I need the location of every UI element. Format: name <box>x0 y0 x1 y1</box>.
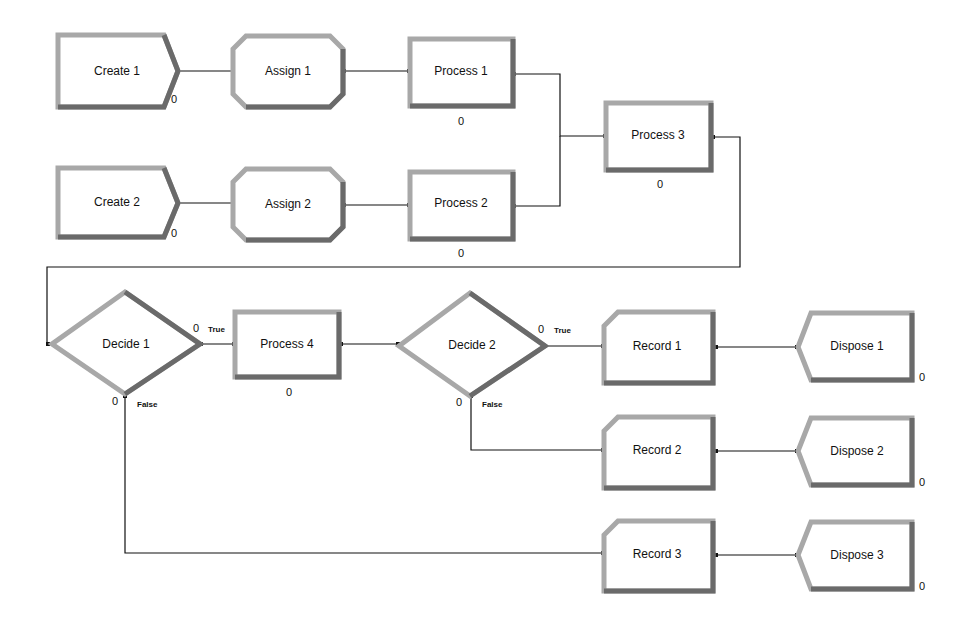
dispose-module-3[interactable]: Dispose 3 0 <box>798 522 925 592</box>
dispose2-label: Dispose 2 <box>830 444 884 458</box>
connector-process2-process3[interactable] <box>514 136 560 206</box>
record-module-1[interactable]: Record 1 <box>604 312 713 383</box>
dispose3-count: 0 <box>919 580 925 592</box>
create2-count: 0 <box>171 227 177 239</box>
create2-label: Create 2 <box>94 195 140 209</box>
assign-module-2[interactable]: Assign 2 <box>233 169 343 240</box>
dispose-module-1[interactable]: Dispose 1 0 <box>798 313 925 383</box>
process1-label: Process 1 <box>434 64 488 78</box>
process-module-1[interactable]: Process 1 0 <box>410 39 513 127</box>
assign1-label: Assign 1 <box>265 64 311 78</box>
process4-label: Process 4 <box>260 337 314 351</box>
dispose-module-2[interactable]: Dispose 2 0 <box>798 418 925 488</box>
dispose2-count: 0 <box>919 476 925 488</box>
dispose1-count: 0 <box>919 371 925 383</box>
process3-label: Process 3 <box>631 128 685 142</box>
decide2-false-label: False <box>482 400 503 409</box>
decide2-true-count: 0 <box>538 323 544 335</box>
dispose3-label: Dispose 3 <box>830 548 884 562</box>
decide1-label: Decide 1 <box>102 337 150 351</box>
decide1-false-count: 0 <box>112 395 118 407</box>
decide2-label: Decide 2 <box>448 338 496 352</box>
record1-label: Record 1 <box>633 339 682 353</box>
decide1-true-count: 0 <box>193 322 199 334</box>
process-module-4[interactable]: Process 4 0 <box>235 312 339 398</box>
decide1-false-label: False <box>137 400 158 409</box>
connector-process1-process3[interactable] <box>514 74 605 136</box>
decide2-false-count: 0 <box>456 396 462 408</box>
process1-count: 0 <box>458 115 464 127</box>
create-module-2[interactable]: Create 2 0 <box>58 168 178 239</box>
assign-module-1[interactable]: Assign 1 <box>233 36 343 107</box>
decide-module-1[interactable]: Decide 1 0 True 0 False <box>52 292 225 409</box>
process2-count: 0 <box>458 247 464 259</box>
process-module-3[interactable]: Process 3 0 <box>606 103 711 190</box>
record3-label: Record 3 <box>633 547 682 561</box>
process2-label: Process 2 <box>434 196 488 210</box>
flowchart-canvas: Create 1 0 Create 2 0 Assign 1 Assign 2 … <box>0 0 964 619</box>
assign2-label: Assign 2 <box>265 197 311 211</box>
connector-decide1-false-record3[interactable] <box>125 396 603 553</box>
process-module-2[interactable]: Process 2 0 <box>410 172 513 259</box>
create1-count: 0 <box>171 93 177 105</box>
record-module-2[interactable]: Record 2 <box>604 417 713 488</box>
decide1-true-label: True <box>208 325 225 334</box>
record2-label: Record 2 <box>633 443 682 457</box>
create1-label: Create 1 <box>94 64 140 78</box>
decide2-true-label: True <box>554 326 571 335</box>
decide-module-2[interactable]: Decide 2 0 True 0 False <box>399 293 571 409</box>
create-module-1[interactable]: Create 1 0 <box>58 35 178 107</box>
dispose1-label: Dispose 1 <box>830 339 884 353</box>
process4-count: 0 <box>286 386 292 398</box>
record-module-3[interactable]: Record 3 <box>604 521 713 591</box>
process3-count: 0 <box>657 178 663 190</box>
